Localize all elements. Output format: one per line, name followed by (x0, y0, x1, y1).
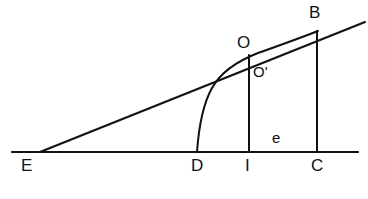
label-point-i: I (245, 157, 250, 174)
label-point-o-prime: O' (253, 64, 268, 79)
geometry-figure: B O O' e E D I C (0, 0, 368, 199)
label-segment-e: e (272, 130, 280, 145)
label-point-c: C (311, 157, 323, 174)
label-point-o: O (237, 34, 250, 51)
label-point-e: E (21, 157, 32, 174)
label-point-d: D (191, 157, 203, 174)
arc-d-to-b (197, 31, 318, 152)
label-point-b: B (309, 4, 320, 21)
